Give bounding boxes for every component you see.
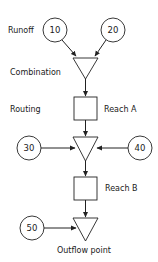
outflow-triangle bbox=[73, 218, 98, 241]
runoff-label: Runoff bbox=[8, 26, 34, 35]
flow-diagram: Runoff Combination Routing Reach A Reach… bbox=[0, 0, 158, 262]
combination-label: Combination bbox=[10, 68, 61, 77]
node-40: 40 bbox=[128, 136, 152, 160]
junction-triangle-2 bbox=[73, 137, 98, 161]
outflow-point-label: Outflow point bbox=[57, 246, 111, 255]
node-20: 20 bbox=[101, 18, 125, 42]
routing-label: Routing bbox=[10, 105, 41, 114]
reach-b-label: Reach B bbox=[105, 184, 138, 193]
node-20-text: 20 bbox=[108, 25, 119, 35]
node-30-text: 30 bbox=[24, 143, 35, 153]
node-50: 50 bbox=[20, 216, 44, 240]
reach-b-box bbox=[74, 177, 97, 200]
reach-a-box bbox=[74, 97, 97, 120]
reach-a-label: Reach A bbox=[104, 105, 137, 114]
node-10: 10 bbox=[43, 18, 67, 42]
node-10-text: 10 bbox=[50, 25, 61, 35]
node-30: 30 bbox=[17, 136, 41, 160]
node-50-text: 50 bbox=[27, 223, 38, 233]
node-40-text: 40 bbox=[135, 143, 146, 153]
combination-triangle-1 bbox=[73, 58, 98, 79]
arrow-10-to-combination bbox=[62, 40, 76, 56]
arrow-20-to-combination bbox=[95, 40, 106, 56]
